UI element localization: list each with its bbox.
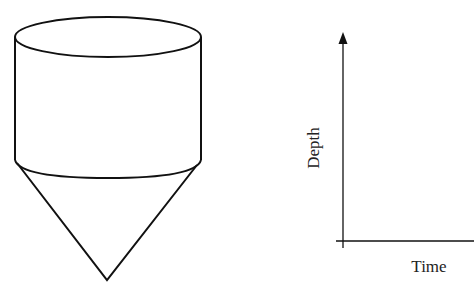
depth-time-graph: Depth Time <box>304 32 474 276</box>
tank-cone <box>17 163 197 280</box>
diagram-canvas: Depth Time <box>0 0 474 294</box>
tank-top-ellipse <box>15 17 201 57</box>
y-axis-arrow-icon <box>339 32 348 44</box>
x-axis-label: Time <box>411 257 446 276</box>
tank-bottom-rim <box>15 160 201 178</box>
tank <box>15 17 201 280</box>
y-axis-label: Depth <box>304 127 323 169</box>
